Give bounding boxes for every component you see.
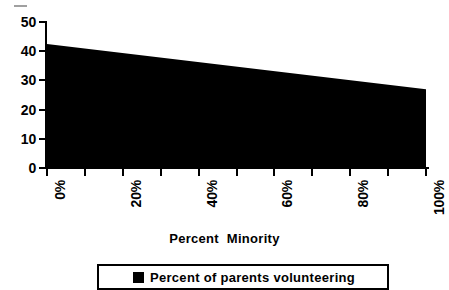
legend: Percent of parents volunteering bbox=[97, 264, 389, 290]
x-axis-tick-mark bbox=[273, 169, 275, 176]
y-axis-tick-mark bbox=[39, 50, 46, 52]
y-axis-tick-label: 10 bbox=[8, 132, 36, 146]
y-axis-line bbox=[45, 21, 47, 169]
x-axis-tick-mark bbox=[160, 169, 162, 176]
x-axis-tick-mark bbox=[122, 169, 124, 176]
y-axis-tick-mark bbox=[39, 79, 46, 81]
y-axis-tick-mark bbox=[39, 21, 46, 23]
x-axis-tick-mark bbox=[425, 169, 427, 176]
x-axis-tick-mark bbox=[84, 169, 86, 176]
legend-swatch-icon bbox=[133, 272, 144, 283]
y-axis-tick-mark bbox=[39, 167, 46, 169]
x-axis-tick-mark bbox=[349, 169, 351, 176]
x-axis-tick-label: 40% bbox=[205, 180, 219, 207]
x-axis-tick-label: 80% bbox=[356, 180, 370, 207]
y-axis-tick-label: 40 bbox=[8, 44, 36, 58]
y-axis-tick-label: 0 bbox=[8, 161, 36, 175]
x-axis-tick-label: 0% bbox=[53, 180, 67, 200]
x-axis-tick-mark bbox=[46, 169, 48, 176]
legend-item: Percent of parents volunteering bbox=[131, 270, 355, 285]
x-axis-tick-mark bbox=[236, 169, 238, 176]
y-axis-tick-label: 20 bbox=[8, 103, 36, 117]
y-axis-tick-mark bbox=[39, 109, 46, 111]
y-axis-tick-labels: 50403020100 bbox=[6, 0, 36, 200]
area-series-percent-of-parents-volunteering bbox=[47, 22, 426, 168]
x-axis-line bbox=[40, 167, 429, 169]
y-axis-tick-mark bbox=[39, 138, 46, 140]
y-axis-tick-label: 30 bbox=[8, 73, 36, 87]
x-axis-tick-label: 20% bbox=[129, 180, 143, 207]
plot-area bbox=[47, 22, 426, 168]
legend-item-label: Percent of parents volunteering bbox=[150, 270, 355, 285]
x-axis-tick-mark bbox=[311, 169, 313, 176]
x-axis-tick-label: 60% bbox=[280, 180, 294, 207]
x-axis-title: Percent Minority bbox=[0, 231, 449, 246]
chart-figure: 50403020100 0%20%40%60%80%100% Percent M… bbox=[0, 0, 449, 290]
x-axis-tick-mark bbox=[387, 169, 389, 176]
y-axis-tick-label: 50 bbox=[8, 15, 36, 29]
x-axis-tick-mark bbox=[198, 169, 200, 176]
x-axis-tick-label: 100% bbox=[432, 180, 446, 215]
